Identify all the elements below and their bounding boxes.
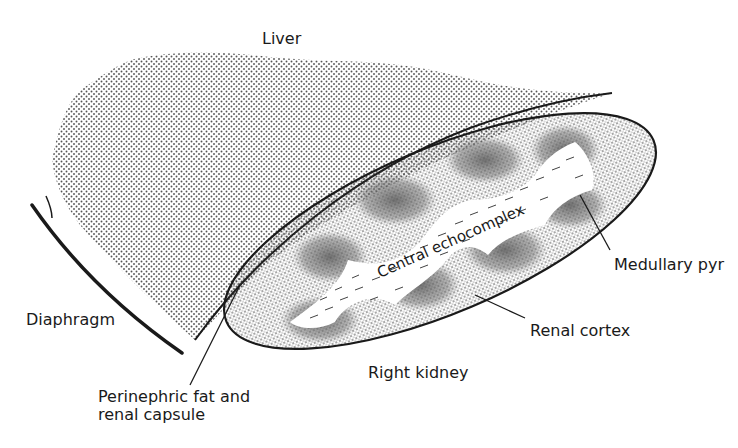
diagram-canvas: Liver Diaphragm Perinephric fat and rena… <box>0 0 738 448</box>
diaphragm-inner-line <box>46 196 52 218</box>
label-renal-cortex: Renal cortex <box>530 321 630 340</box>
label-medullary-pyr: Medullary pyr <box>614 255 724 274</box>
label-perinephric-line1: Perinephric fat and <box>98 387 250 406</box>
label-right-kidney: Right kidney <box>368 363 469 382</box>
label-diaphragm: Diaphragm <box>26 310 115 329</box>
label-perinephric-line2: renal capsule <box>98 405 205 424</box>
label-liver: Liver <box>262 29 302 48</box>
cortex-leader-line <box>475 295 525 318</box>
